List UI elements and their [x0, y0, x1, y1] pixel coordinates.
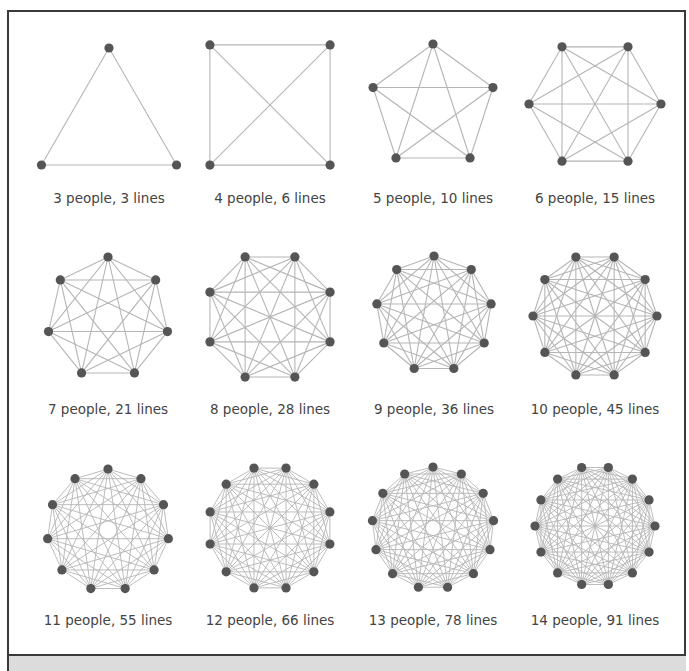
person-node	[392, 265, 401, 274]
complete-graph-13	[368, 462, 498, 591]
edge-line	[545, 316, 657, 352]
edge-line	[48, 505, 164, 539]
person-node	[368, 83, 377, 92]
edges	[535, 468, 655, 585]
person-node	[222, 567, 231, 576]
edge-line	[82, 332, 168, 373]
graph-label: 9 people, 36 lines	[352, 401, 516, 417]
edge-line	[41, 48, 109, 165]
person-node	[480, 338, 489, 347]
edges	[210, 257, 330, 377]
edges	[529, 47, 661, 161]
edges	[210, 45, 330, 165]
person-node	[553, 568, 562, 577]
person-node	[70, 474, 79, 483]
complete-graph-7	[44, 252, 172, 377]
person-node	[325, 539, 334, 548]
complete-graph-9	[372, 251, 495, 373]
person-node	[449, 364, 458, 373]
edge-line	[108, 257, 156, 280]
person-node	[37, 160, 46, 169]
person-node	[172, 160, 181, 169]
complete-graph-6	[524, 42, 665, 166]
person-node	[656, 99, 665, 108]
person-node	[164, 534, 173, 543]
person-node	[623, 157, 632, 166]
edge-line	[49, 280, 156, 332]
edge-line	[545, 280, 657, 316]
edges	[49, 257, 168, 373]
person-node	[391, 153, 400, 162]
person-node	[410, 364, 419, 373]
graph-label: 12 people, 66 lines	[188, 612, 352, 628]
edge-line	[397, 270, 491, 304]
person-node	[577, 580, 586, 589]
edge-line	[49, 332, 135, 373]
person-node	[557, 157, 566, 166]
edge-line	[533, 316, 645, 352]
edge-line	[295, 342, 330, 377]
person-node	[528, 311, 537, 320]
edge-line	[245, 257, 330, 342]
edge-line	[295, 257, 330, 292]
edge-line	[576, 352, 645, 375]
edge-line	[109, 48, 177, 165]
edge-line	[373, 88, 470, 158]
edge-line	[470, 88, 493, 158]
edge-line	[645, 316, 657, 352]
graph-label: 14 people, 91 lines	[513, 612, 677, 628]
graph-label: 7 people, 21 lines	[26, 401, 190, 417]
person-node	[159, 500, 168, 509]
edge-line	[75, 479, 154, 570]
graph-label: 10 people, 45 lines	[513, 401, 677, 417]
edge-line	[628, 47, 661, 104]
person-node	[536, 495, 545, 504]
person-node	[325, 337, 334, 346]
person-node	[326, 40, 335, 49]
edge-line	[60, 280, 167, 332]
person-node	[540, 275, 549, 284]
person-node	[205, 161, 214, 170]
person-node	[48, 500, 57, 509]
person-node	[379, 338, 388, 347]
person-node	[524, 99, 533, 108]
person-node	[414, 583, 423, 592]
person-node	[388, 569, 397, 578]
person-node	[222, 480, 231, 489]
person-node	[378, 489, 387, 498]
edges	[372, 467, 493, 587]
person-node	[488, 83, 497, 92]
person-node	[43, 534, 52, 543]
edge-line	[53, 505, 169, 539]
person-node	[571, 370, 580, 379]
person-node	[577, 463, 586, 472]
person-node	[206, 539, 215, 548]
person-node	[104, 43, 113, 52]
edge-line	[210, 292, 295, 377]
complete-graph-3	[37, 43, 181, 169]
edge-line	[373, 44, 433, 88]
graph-label: 11 people, 55 lines	[26, 612, 190, 628]
person-node	[241, 372, 250, 381]
edge-line	[210, 257, 245, 292]
edge-line	[628, 104, 661, 161]
edge-line	[62, 479, 141, 570]
bottom-strip	[7, 654, 686, 671]
graph-label: 6 people, 15 lines	[513, 190, 677, 206]
graph-label: 13 people, 78 lines	[351, 612, 515, 628]
complete-graph-10	[528, 252, 661, 379]
person-node	[77, 368, 86, 377]
edge-line	[645, 280, 657, 316]
edge-line	[529, 104, 562, 161]
person-node	[628, 474, 637, 483]
edge-line	[529, 47, 628, 104]
edge-line	[562, 104, 661, 161]
edge-line	[434, 256, 471, 270]
person-node	[368, 516, 377, 525]
edge-line	[533, 280, 645, 316]
edges	[41, 48, 176, 165]
person-node	[644, 547, 653, 556]
person-node	[371, 545, 380, 554]
graph-label: 8 people, 28 lines	[188, 401, 352, 417]
person-node	[610, 370, 619, 379]
